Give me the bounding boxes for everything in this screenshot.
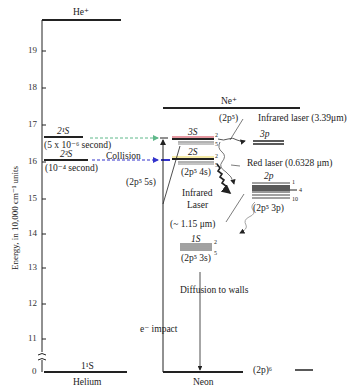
tick-18: 18 bbox=[28, 82, 37, 92]
ne-2s-sub-5: 5 bbox=[215, 162, 218, 168]
y-axis bbox=[38, 20, 46, 372]
ne-ion-config: (2p⁵) bbox=[219, 113, 238, 123]
e-impact-label: e⁻ impact bbox=[140, 324, 177, 334]
ne-2s-sub-2: 2 bbox=[215, 153, 218, 159]
ne-2p-sub-10: 10 bbox=[292, 196, 298, 202]
diffusion-label: Diffusion to walls bbox=[180, 285, 248, 295]
tick-0: 0 bbox=[32, 366, 37, 376]
he-21s-label: 2¹S bbox=[57, 126, 69, 136]
infrared-339-transition bbox=[218, 138, 245, 141]
ne-1s-config: (2p⁵ 3s) bbox=[181, 253, 211, 263]
tick-15: 15 bbox=[28, 193, 37, 203]
red-laser-label: Red laser (0.6328 μm) bbox=[247, 158, 332, 168]
tick-14: 14 bbox=[28, 228, 37, 238]
ne-2s-label: 2S bbox=[188, 147, 198, 157]
tick-13: 13 bbox=[28, 262, 37, 272]
ne-1s-label: 1S bbox=[191, 234, 201, 244]
ne-3s-manifold bbox=[172, 137, 214, 144]
tick-17: 17 bbox=[28, 119, 37, 129]
infrared-115-line2: Laser bbox=[187, 200, 208, 210]
collision-label: Collision bbox=[106, 151, 141, 161]
ne-2p-sub-4: 4 bbox=[299, 187, 302, 193]
infrared-115-line1: Infrared bbox=[182, 188, 213, 198]
he-ion-label: He⁺ bbox=[73, 7, 89, 17]
ne-3p-label: 3p bbox=[260, 129, 270, 139]
y-axis-label: Energy, in 10,000 cm⁻¹ units bbox=[10, 143, 20, 293]
ne-3p-level bbox=[253, 141, 284, 144]
ne-1s-sub-2: 2 bbox=[214, 239, 217, 245]
ne-2s-config: (2p⁵ 4s) bbox=[181, 167, 211, 177]
helium-column-label: Helium bbox=[73, 377, 102, 387]
ne-1s-manifold bbox=[180, 244, 212, 250]
he-ground-label: 1¹S bbox=[81, 361, 94, 371]
infrared-115-wavelength: (~ 1.15 μm) bbox=[170, 219, 215, 229]
ne-2p-sub-1: 1 bbox=[292, 179, 295, 185]
ne-ion-label: Ne⁺ bbox=[221, 96, 237, 106]
ne-2p-label: 2p bbox=[264, 171, 274, 181]
infrared-339-label: Infrared laser (3.39μm) bbox=[258, 113, 347, 123]
ne-3s-sub-5: 5 bbox=[215, 141, 218, 147]
tick-11: 11 bbox=[28, 333, 37, 343]
ne-2s-manifold bbox=[172, 157, 214, 164]
ne-3s-config: (2p⁵ 5s) bbox=[126, 177, 156, 187]
tick-19: 19 bbox=[28, 45, 37, 55]
ne-2p-config: (2p⁵ 3p) bbox=[253, 203, 284, 213]
infrared-115-transition bbox=[217, 164, 230, 193]
he-23s-label: 2³S bbox=[60, 149, 72, 159]
ne-2p-manifold bbox=[252, 183, 297, 198]
energy-level-diagram bbox=[0, 0, 362, 392]
ne-3s-label: 3S bbox=[188, 127, 198, 137]
tick-16: 16 bbox=[28, 156, 37, 166]
tick-12: 12 bbox=[28, 298, 37, 308]
he-21s-lifetime: (5 x 10⁻⁶ second) bbox=[44, 140, 111, 150]
ne-ground-config: (2p)⁶ bbox=[253, 365, 272, 375]
neon-column-label: Neon bbox=[193, 377, 214, 387]
ne-3s-sub-2: 2 bbox=[215, 132, 218, 138]
he-23s-lifetime: (10⁻⁴ second) bbox=[45, 163, 98, 173]
ne-1s-sub-5: 5 bbox=[214, 250, 217, 256]
